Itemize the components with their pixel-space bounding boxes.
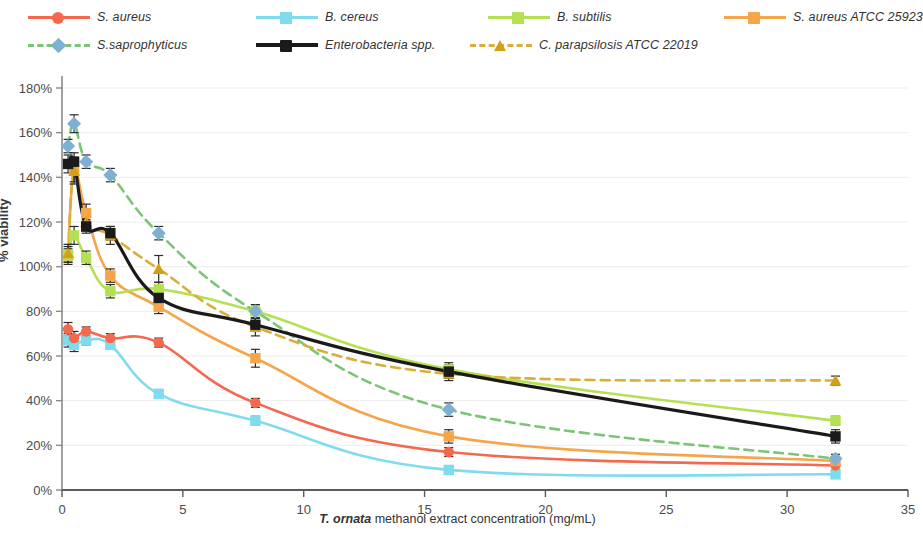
- data-point-diamond[interactable]: [61, 139, 75, 153]
- x-axis-title: T. ornata methanol extract concentration…: [0, 512, 915, 526]
- legend-marker-square-icon: [748, 12, 760, 24]
- data-point-diamond[interactable]: [442, 403, 456, 417]
- legend-s-saprophyticus[interactable]: S.saprophyticus: [28, 36, 187, 54]
- data-point-circle[interactable]: [250, 398, 260, 408]
- legend-marker-square-icon: [280, 40, 292, 52]
- data-point-square[interactable]: [105, 286, 115, 296]
- data-point-diamond[interactable]: [67, 117, 81, 131]
- legend-key-6: [256, 38, 318, 52]
- data-point-square[interactable]: [250, 353, 260, 363]
- legend-label: S.saprophyticus: [97, 38, 187, 52]
- data-point-square[interactable]: [830, 431, 840, 441]
- legend-label: S. aureus: [97, 10, 151, 24]
- data-point-circle[interactable]: [69, 333, 79, 343]
- data-point-circle[interactable]: [105, 333, 115, 343]
- data-point-square[interactable]: [81, 221, 91, 231]
- y-tick-label-160: 160%: [19, 125, 53, 140]
- data-point-square[interactable]: [830, 416, 840, 426]
- error-bars-group: [64, 115, 840, 477]
- legend-key-3: [488, 10, 550, 24]
- data-point-circle[interactable]: [153, 337, 163, 347]
- data-point-square[interactable]: [830, 469, 840, 479]
- data-point-square[interactable]: [153, 293, 163, 303]
- series-line-path: [68, 170, 835, 380]
- y-tick-label-80: 80%: [26, 304, 52, 319]
- chart-legend: S. aureusB. cereusB. subtilisS. aureus A…: [0, 0, 915, 64]
- legend-marker-triangle-icon: [494, 40, 506, 51]
- legend-label: C. parapsilosis ATCC 22019: [539, 38, 698, 52]
- legend-s-aureus-atcc-25923[interactable]: S. aureus ATCC 25923: [724, 8, 923, 26]
- series-lines-group: [68, 123, 835, 475]
- legend-marker-diamond-icon: [51, 38, 67, 54]
- data-point-square[interactable]: [81, 335, 91, 345]
- data-point-circle[interactable]: [81, 326, 91, 336]
- legend-marker-square-icon: [280, 12, 292, 24]
- y-tick-label-40: 40%: [26, 393, 52, 408]
- legend-c-parapsilosis-atcc-22019[interactable]: C. parapsilosis ATCC 22019: [470, 36, 698, 54]
- series-6-line: [68, 157, 835, 436]
- y-tick-label-0: 0%: [33, 483, 52, 498]
- legend-label: B. subtilis: [557, 10, 612, 24]
- data-point-square[interactable]: [153, 389, 163, 399]
- y-tick-label-140: 140%: [19, 170, 53, 185]
- data-point-square[interactable]: [444, 465, 454, 475]
- data-point-square[interactable]: [105, 270, 115, 280]
- legend-key-4: [724, 10, 786, 24]
- y-tick-label-20: 20%: [26, 438, 52, 453]
- legend-marker-square-icon: [512, 12, 524, 24]
- data-point-square[interactable]: [69, 230, 79, 240]
- legend-label: B. cereus: [325, 10, 379, 24]
- legend-key-2: [256, 10, 318, 24]
- legend-s-aureus[interactable]: S. aureus: [28, 8, 151, 26]
- legend-marker-circle-icon: [52, 12, 64, 24]
- y-tick-label-180: 180%: [19, 81, 53, 96]
- y-tick-label-60: 60%: [26, 349, 52, 364]
- data-point-square[interactable]: [444, 431, 454, 441]
- series-markers-group: [61, 117, 843, 480]
- series-line-path: [68, 235, 835, 420]
- chart-plot-area: 0%20%40%60%80%100%120%140%160%180%051015…: [0, 64, 915, 544]
- x-axis-title-italic: T. ornata: [319, 512, 371, 526]
- legend-key-1: [28, 10, 90, 24]
- series-line-path: [68, 157, 835, 436]
- data-point-square[interactable]: [444, 366, 454, 376]
- legend-key-7: [470, 38, 532, 52]
- series-7-line: [68, 170, 835, 380]
- x-axis-title-rest: methanol extract concentration (mg/mL): [371, 512, 595, 526]
- data-point-square[interactable]: [69, 157, 79, 167]
- legend-b-cereus[interactable]: B. cereus: [256, 8, 379, 26]
- y-tick-label-120: 120%: [19, 215, 53, 230]
- legend-key-5: [28, 38, 90, 52]
- data-point-square[interactable]: [81, 253, 91, 263]
- legend-label: Enterobacteria spp.: [325, 38, 435, 52]
- chart-svg: 0%20%40%60%80%100%120%140%160%180%051015…: [0, 64, 915, 544]
- data-point-circle[interactable]: [63, 324, 73, 334]
- data-point-square[interactable]: [250, 416, 260, 426]
- y-axis-title: % viability: [0, 198, 11, 262]
- data-point-diamond[interactable]: [79, 155, 93, 169]
- data-point-circle[interactable]: [444, 447, 454, 457]
- legend-b-subtilis[interactable]: B. subtilis: [488, 8, 612, 26]
- y-tick-label-100: 100%: [19, 259, 53, 274]
- legend-enterobacteria-spp[interactable]: Enterobacteria spp.: [256, 36, 435, 54]
- data-point-square[interactable]: [153, 284, 163, 294]
- data-point-square[interactable]: [105, 228, 115, 238]
- data-point-square[interactable]: [153, 302, 163, 312]
- legend-label: S. aureus ATCC 25923: [793, 10, 923, 24]
- data-point-square[interactable]: [250, 320, 260, 330]
- series-3-line: [68, 235, 835, 420]
